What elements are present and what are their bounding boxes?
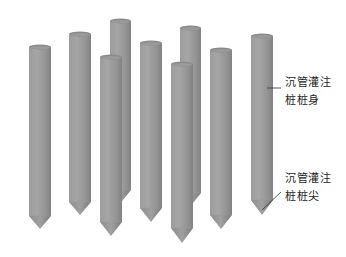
pile-shaft	[251, 36, 273, 200]
piles-illustration	[0, 0, 346, 257]
pile-shaft	[171, 64, 193, 228]
pile-tip	[100, 222, 122, 236]
pile-diagram: 沉管灌注 桩桩身 沉管灌注 桩桩尖	[0, 0, 346, 257]
pile-5	[140, 41, 162, 223]
pile-shaft	[210, 50, 232, 215]
pile-tip-label-line1: 沉管灌注	[285, 172, 331, 186]
pile-1	[29, 45, 51, 230]
pile-7	[171, 62, 193, 244]
pile-tip	[171, 228, 193, 243]
pile-tip-label-line2: 桩桩尖	[285, 190, 331, 204]
pile-9	[251, 34, 273, 216]
pile-tip	[29, 216, 51, 229]
pile-shaft	[140, 43, 162, 208]
pile-shaft	[100, 57, 122, 222]
pile-shaft	[29, 47, 51, 216]
pile-tip	[69, 202, 91, 215]
pile-8	[210, 48, 232, 230]
pile-shaft	[69, 34, 91, 202]
pile-tip-label: 沉管灌注 桩桩尖	[285, 172, 331, 204]
pile-body-label-line2: 桩桩身	[285, 94, 331, 108]
pile-tip	[210, 215, 232, 229]
pile-tip	[140, 208, 162, 222]
pile-4	[100, 55, 122, 237]
front-piles	[29, 32, 273, 244]
pile-2	[69, 32, 91, 216]
pile-body-label: 沉管灌注 桩桩身	[285, 76, 331, 108]
pile-body-label-line1: 沉管灌注	[285, 76, 331, 90]
